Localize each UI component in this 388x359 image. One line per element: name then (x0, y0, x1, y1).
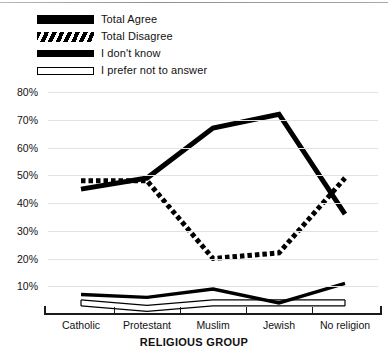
legend-label-total-disagree: Total Disagree (101, 31, 173, 42)
gridline-80 (48, 92, 378, 93)
x-axis-end-cap-right (380, 306, 382, 314)
y-tick-label-70: 70% (17, 115, 38, 126)
plot-area (48, 92, 378, 314)
y-tick-label-60: 60% (17, 142, 38, 153)
y-axis-tick-labels: 10%20%30%40%50%60%70%80% (0, 92, 44, 314)
x-tick-label-jewish: Jewish (263, 319, 295, 331)
gridline-40 (48, 203, 378, 204)
legend-item-total-disagree: Total Disagree (37, 29, 207, 44)
x-axis-tick-2 (180, 307, 181, 315)
x-axis-line (44, 313, 382, 315)
chart-legend: Total Agree Total Disagree I don't know … (37, 12, 207, 80)
legend-item-i-dont-know: I don't know (37, 46, 207, 61)
y-tick-label-20: 20% (17, 253, 38, 264)
gridline-30 (48, 231, 378, 232)
x-tick-label-protestant: Protestant (123, 319, 171, 331)
legend-swatch-total-agree (37, 15, 94, 24)
scan-artifact-line (0, 2, 388, 3)
y-tick-label-10: 10% (17, 281, 38, 292)
legend-item-total-agree: Total Agree (37, 12, 207, 27)
x-axis-tick-3 (246, 307, 247, 315)
series-line-i-prefer-not-to-answer (81, 306, 345, 312)
gridline-50 (48, 175, 378, 176)
x-tick-label-muslim: Muslim (196, 319, 229, 331)
y-tick-label-80: 80% (17, 87, 38, 98)
series-line-total-agree (81, 114, 345, 214)
gridline-20 (48, 259, 378, 260)
y-tick-label-40: 40% (17, 198, 38, 209)
gridline-70 (48, 120, 378, 121)
legend-label-i-prefer-not-to-answer: I prefer not to answer (101, 65, 207, 76)
legend-item-i-prefer-not-to-answer: I prefer not to answer (37, 63, 207, 78)
gridline-60 (48, 148, 378, 149)
legend-swatch-i-dont-know (37, 50, 94, 57)
y-tick-label-30: 30% (17, 226, 38, 237)
legend-label-i-dont-know: I don't know (101, 48, 161, 59)
legend-swatch-i-prefer-not-to-answer (37, 67, 94, 75)
x-axis-title: RELIGIOUS GROUP (0, 336, 388, 348)
x-tick-label-catholic: Catholic (62, 319, 100, 331)
gridline-10 (48, 286, 378, 287)
x-axis-tick-labels: CatholicProtestantMuslimJewishNo religio… (44, 319, 382, 335)
legend-swatch-total-disagree (37, 32, 94, 42)
x-axis-tick-1 (114, 307, 115, 315)
x-axis-end-cap-left (44, 306, 46, 314)
x-tick-label-no-religion: No religion (320, 319, 370, 331)
series-line-i-prefer-not-to-answer (81, 300, 345, 306)
x-axis-tick-4 (312, 307, 313, 315)
legend-label-total-agree: Total Agree (101, 14, 157, 25)
y-tick-label-50: 50% (17, 170, 38, 181)
series-line-total-disagree (81, 178, 345, 258)
